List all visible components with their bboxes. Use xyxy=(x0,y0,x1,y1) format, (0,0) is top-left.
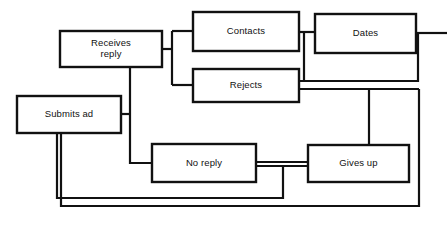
diagram-canvas: Submits adReceivesreplyContactsDatesReje… xyxy=(0,0,447,225)
node-label-submits-ad: Submits ad xyxy=(45,108,94,119)
node-label-receives-reply: reply xyxy=(100,48,121,59)
node-submits-ad[interactable]: Submits ad xyxy=(17,96,121,133)
connector-receives-down xyxy=(130,67,152,163)
node-label-gives-up: Gives up xyxy=(339,157,377,168)
node-label-no-reply: No reply xyxy=(186,157,222,168)
node-label-dates: Dates xyxy=(353,27,378,38)
flowchart-svg: Submits adReceivesreplyContactsDatesReje… xyxy=(0,0,447,225)
node-contacts[interactable]: Contacts xyxy=(193,12,299,51)
node-label-contacts: Contacts xyxy=(227,25,265,36)
node-layer: Submits adReceivesreplyContactsDatesReje… xyxy=(17,12,416,182)
node-rejects[interactable]: Rejects xyxy=(193,69,299,102)
node-dates[interactable]: Dates xyxy=(315,14,416,53)
node-label-receives-reply: Receives xyxy=(91,37,131,48)
node-receives-reply[interactable]: Receivesreply xyxy=(60,31,162,67)
node-gives-up[interactable]: Gives up xyxy=(308,145,409,182)
node-label-rejects: Rejects xyxy=(230,79,263,90)
node-no-reply[interactable]: No reply xyxy=(152,144,256,182)
